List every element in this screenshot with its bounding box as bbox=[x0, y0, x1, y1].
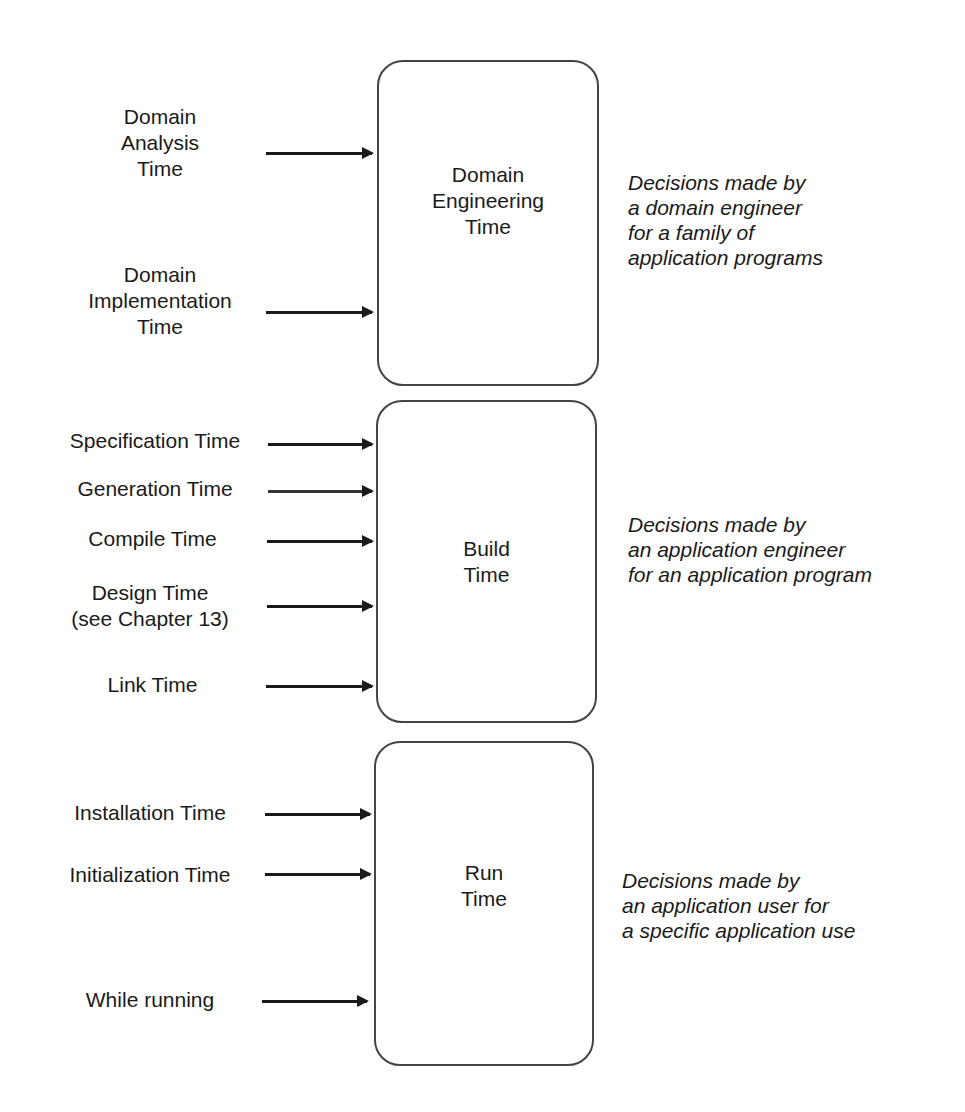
input-label-initialization-time: Initialization Time bbox=[40, 862, 260, 888]
arrow-icon bbox=[266, 152, 372, 155]
arrow-icon bbox=[265, 873, 370, 876]
arrow-icon bbox=[267, 605, 372, 608]
input-label-domain-analysis-time: Domain Analysis Time bbox=[90, 104, 230, 182]
build-time-box: Build Time bbox=[376, 400, 597, 723]
domain-engineering-time-box: Domain Engineering Time bbox=[377, 60, 599, 386]
input-label-domain-implementation-time: Domain Implementation Time bbox=[60, 262, 260, 340]
input-label-generation-time: Generation Time bbox=[50, 476, 260, 502]
arrow-icon bbox=[265, 813, 370, 816]
arrow-icon bbox=[266, 311, 372, 314]
stage-note-domain-engineer: Decisions made by a domain engineer for … bbox=[628, 170, 823, 270]
stage-note-application-engineer: Decisions made by an application enginee… bbox=[628, 512, 872, 587]
input-label-while-running: While running bbox=[45, 987, 255, 1013]
arrow-icon bbox=[262, 1000, 367, 1003]
box-title: Run Time bbox=[376, 860, 592, 912]
stage-note-application-user: Decisions made by an application user fo… bbox=[622, 868, 855, 943]
input-label-specification-time: Specification Time bbox=[50, 428, 260, 454]
input-label-design-time: Design Time (see Chapter 13) bbox=[45, 580, 255, 632]
arrow-icon bbox=[266, 685, 372, 688]
input-label-installation-time: Installation Time bbox=[45, 800, 255, 826]
arrow-icon bbox=[268, 490, 372, 493]
input-label-link-time: Link Time bbox=[50, 672, 255, 698]
arrow-icon bbox=[268, 443, 372, 446]
arrow-icon bbox=[267, 540, 372, 543]
box-title: Build Time bbox=[378, 536, 595, 588]
run-time-box: Run Time bbox=[374, 741, 594, 1066]
input-label-compile-time: Compile Time bbox=[50, 526, 255, 552]
box-title: Domain Engineering Time bbox=[379, 162, 597, 240]
